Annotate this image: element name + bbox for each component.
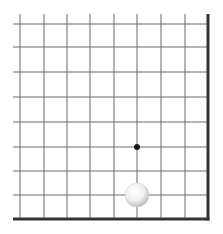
star-points bbox=[134, 144, 140, 150]
white-stone[interactable] bbox=[125, 183, 149, 207]
star-point-icon bbox=[134, 144, 140, 150]
go-board[interactable] bbox=[0, 0, 223, 234]
board-edges bbox=[13, 14, 210, 221]
board-grid bbox=[13, 14, 208, 219]
stones-layer[interactable] bbox=[125, 183, 149, 207]
